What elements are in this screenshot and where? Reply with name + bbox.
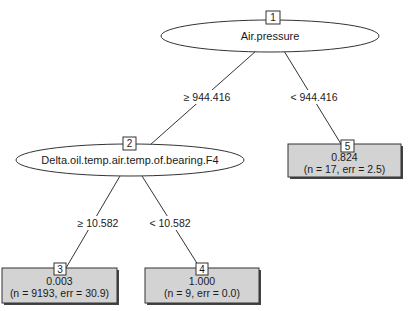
node-3-terminal: 0.003 (n = 9193, err = 30.9) 3 (2, 263, 119, 305)
edge-label-1-2: ≥ 944.416 (184, 91, 231, 103)
node-1-variable: Air.pressure (241, 30, 300, 42)
node-5-value: 0.824 (331, 151, 357, 163)
decision-tree: ≥ 944.416 < 944.416 ≥ 10.582 < 10.582 Ai… (0, 0, 411, 311)
node-2-id: 2 (127, 138, 133, 149)
node-3-stats: (n = 9193, err = 30.9) (10, 287, 109, 299)
node-1: Air.pressure 1 (161, 11, 379, 52)
node-5-stats: (n = 17, err = 2.5) (304, 163, 386, 175)
edge-label-1-5: < 944.416 (290, 91, 337, 103)
edge-label-2-3: ≥ 10.582 (78, 217, 119, 229)
node-4-value: 1.000 (189, 275, 215, 287)
node-4-id: 4 (199, 264, 205, 275)
node-4-stats: (n = 9, err = 0.0) (164, 287, 240, 299)
node-2-variable: Delta.oil.temp.air.temp.of.bearing.F4 (41, 154, 218, 166)
node-3-value: 0.003 (46, 275, 72, 287)
node-2: Delta.oil.temp.air.temp.of.bearing.F4 2 (16, 137, 244, 176)
edge-label-2-4: < 10.582 (149, 217, 190, 229)
node-1-id: 1 (270, 12, 276, 23)
node-5-terminal: 0.824 (n = 17, err = 2.5) 5 (288, 140, 403, 179)
node-3-id: 3 (57, 264, 63, 275)
node-5-id: 5 (345, 141, 351, 152)
node-4-terminal: 1.000 (n = 9, err = 0.0) 4 (145, 263, 261, 305)
